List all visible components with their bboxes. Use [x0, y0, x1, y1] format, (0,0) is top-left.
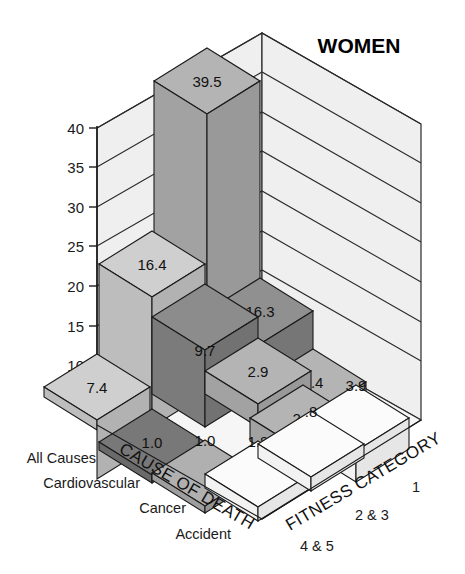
y-tick-label-25: 25 — [67, 238, 84, 255]
y-tick-label-15: 15 — [67, 318, 84, 335]
bar-value-label: 39.5 — [192, 73, 221, 90]
y-tick-label-30: 30 — [67, 199, 84, 216]
fitness-label-4-5: 4 & 5 — [300, 538, 334, 554]
bar-value-label: .8 — [305, 403, 318, 420]
cause-label-cancer: Cancer — [139, 500, 186, 516]
cause-label-all-causes: All Causes — [27, 450, 96, 466]
fitness-label-1: 1 — [412, 479, 420, 495]
cause-label-cardiovascular: Cardiovascular — [43, 475, 140, 491]
y-tick-label-20: 20 — [67, 278, 84, 295]
bar-value-label: 9.7 — [195, 342, 216, 359]
bar-value-label: 3.9 — [346, 377, 367, 394]
bar-value-label: 16.4 — [137, 256, 166, 273]
bar-value-label: 7.4 — [87, 379, 108, 396]
cause-label-accident: Accident — [175, 526, 231, 542]
y-tick-label-40: 40 — [67, 120, 84, 137]
y-tick-label-35: 35 — [67, 159, 84, 176]
fitness-label-2-3: 2 & 3 — [355, 507, 389, 523]
chart-title: WOMEN — [318, 34, 401, 57]
bar-value-label: 1.0 — [142, 434, 163, 451]
bar-value-label: 1.0 — [195, 432, 216, 449]
bar-value-label: 2.9 — [248, 363, 269, 380]
women-3d-bar-chart: 40 35 30 25 20 15 10 39.5 16.3 7.4 16.4 — [0, 0, 465, 574]
